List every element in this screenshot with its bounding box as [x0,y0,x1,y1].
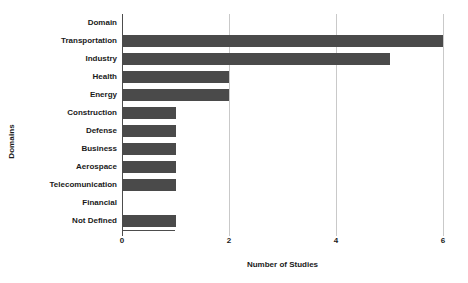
bar-chart: Domains DomainTransportationIndustryHeal… [0,0,468,283]
bar-row [122,50,443,68]
bar [122,215,176,227]
x-axis-line [122,230,175,231]
y-axis-tick-label: Domain [88,14,117,32]
bar-row [122,212,443,230]
plot-area [122,14,443,230]
bar-row [122,104,443,122]
y-axis-tick-label: Transportation [61,32,117,50]
bar-row [122,122,443,140]
bar [122,71,229,83]
bar [122,35,443,47]
bar [122,161,176,173]
y-axis-tick-label: Financial [82,194,117,212]
bar [122,107,176,119]
bar-row [122,158,443,176]
y-axis-tick-labels: DomainTransportationIndustryHealthEnergy… [0,14,117,230]
x-axis-tick-label: 4 [334,236,338,245]
y-axis-tick-label: Not Defined [72,212,117,230]
y-axis-tick-label: Defense [86,122,117,140]
x-axis-tick-label: 0 [120,236,124,245]
bar [122,125,176,137]
bar-row [122,176,443,194]
x-axis-tick-label: 2 [227,236,231,245]
y-axis-tick-label: Business [81,140,117,158]
y-axis-tick-label: Industry [85,50,117,68]
gridline-x-6 [443,14,444,236]
bar-row [122,86,443,104]
x-axis-tick-label: 6 [441,236,445,245]
bar-row [122,194,443,212]
bar [122,143,176,155]
bar-row [122,68,443,86]
y-axis-tick-label: Energy [90,86,117,104]
y-axis-tick-label: Aerospace [76,158,117,176]
bar-row [122,14,443,32]
bar [122,89,229,101]
x-axis-title: Number of Studies [122,260,443,269]
y-axis-tick-label: Construction [67,104,117,122]
bar [122,179,176,191]
y-axis-tick-label: Telecomunication [50,176,117,194]
y-axis-tick-label: Health [93,68,117,86]
bar-row [122,32,443,50]
x-axis-tick-labels: 0246 [122,236,443,248]
bar-row [122,140,443,158]
bar [122,53,390,65]
